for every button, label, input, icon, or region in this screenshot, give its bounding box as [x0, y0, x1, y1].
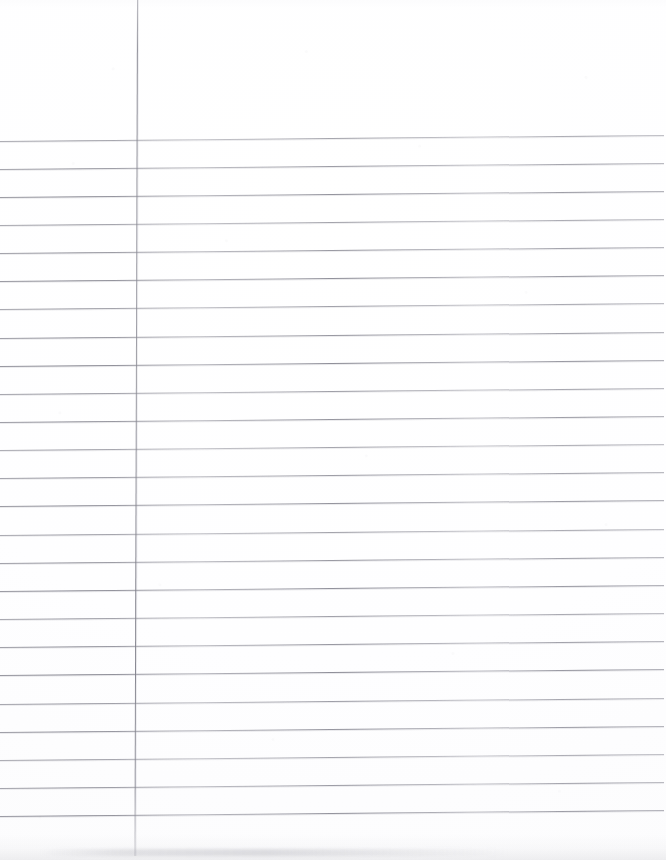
lined-paper-page [0, 0, 666, 860]
paper-surface [0, 0, 666, 860]
